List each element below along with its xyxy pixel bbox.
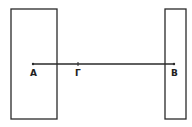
geometry-diagram: A Γ B bbox=[0, 0, 192, 127]
label-a: A bbox=[30, 68, 37, 78]
point-b-marker bbox=[173, 63, 175, 65]
label-gamma: Γ bbox=[75, 68, 81, 78]
label-b: B bbox=[171, 68, 178, 78]
point-a-marker bbox=[32, 63, 34, 65]
